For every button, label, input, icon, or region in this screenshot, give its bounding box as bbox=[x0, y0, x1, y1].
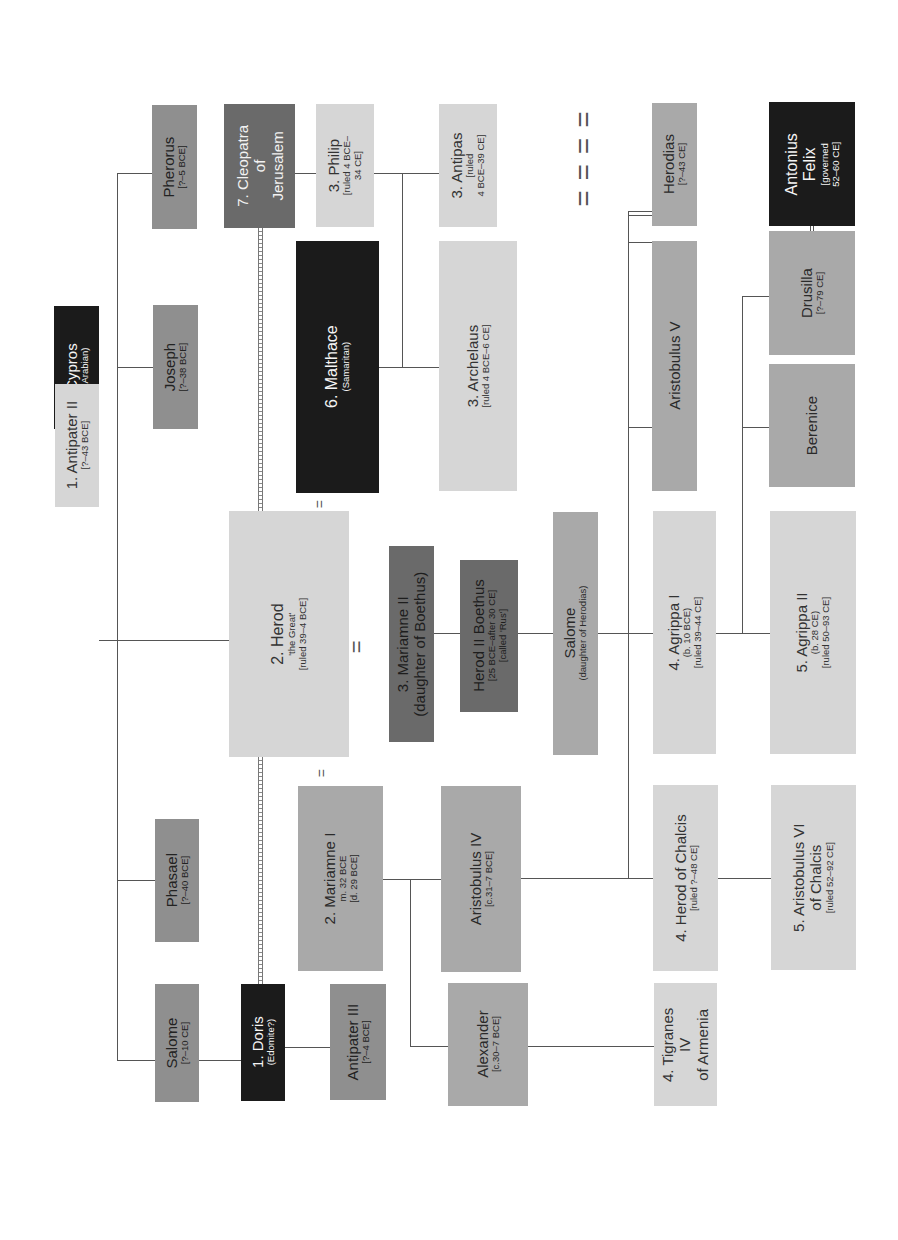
name: 3. Philip bbox=[325, 139, 342, 192]
person-malthace: 6. Malthace(Samaritan) bbox=[296, 241, 379, 493]
person-agrippa-ii: 5. Agrippa II(b. 28 CE)[ruled 50–93 CE] bbox=[770, 511, 856, 754]
person-herodias: Herodias[?–43 CE] bbox=[652, 103, 697, 226]
marriage-symbol-herod-mariamne-i: = bbox=[314, 769, 328, 777]
name: Drusilla bbox=[798, 268, 815, 318]
connector-aristobulus-iv-children bbox=[628, 211, 629, 879]
name: Salome bbox=[561, 608, 578, 659]
realm: of Armenia bbox=[694, 1009, 711, 1081]
person-aristobulus-iv: Aristobulus IV[c.31–7 BCE] bbox=[441, 786, 521, 972]
connector-salome-doris bbox=[199, 1060, 241, 1061]
person-antipater-iii: Antipater III[?–4 BCE] bbox=[330, 984, 386, 1100]
dates: [?–10 CE] bbox=[180, 1022, 191, 1064]
person-antonius-felix: AntoniusFelix[governed52–60 CE] bbox=[769, 102, 855, 226]
connector-alexander bbox=[410, 1046, 448, 1047]
person-phasael: Phasael[?–40 BCE] bbox=[155, 819, 199, 942]
dates: [?–4 BCE] bbox=[361, 1020, 372, 1063]
person-mariamne-ii: 3. Mariamne II(daughter of Boethus) bbox=[389, 546, 434, 742]
parentage: (daughter of Boethus) bbox=[412, 571, 429, 716]
connector-antipater-herod bbox=[99, 640, 229, 641]
name: 3. Mariamne II bbox=[394, 596, 411, 692]
died: [d. 29 BCE] bbox=[349, 854, 360, 903]
person-philip: 3. Philip[ruled 4 BCE–34 CE] bbox=[316, 104, 374, 227]
person-herod-ii-boethus: Herod II Boethus[25 BCE–after 30 CE][cal… bbox=[460, 560, 518, 712]
reign: [ruled 50–93 CE] bbox=[822, 597, 833, 668]
connector-alexander-tigranes bbox=[528, 1046, 654, 1047]
name: 3. Archelaus bbox=[464, 325, 481, 408]
connector-herod-ii-salome bbox=[518, 633, 553, 634]
connector-herod-chalcis-aristobulus-vi bbox=[718, 878, 771, 879]
person-alexander: Alexander[c.30–7 BCE] bbox=[448, 983, 528, 1106]
dates: [?–5 BCE] bbox=[178, 145, 189, 188]
nickname: [called 'Rus'] bbox=[498, 609, 509, 662]
connector-aristobulus-v bbox=[628, 427, 652, 428]
connector-herodias-2 bbox=[628, 215, 652, 216]
person-mariamne-i: 2. Mariamne Im. 32 BCE[d. 29 BCE] bbox=[298, 786, 383, 971]
reign: [ruled 39–4 BCE] bbox=[298, 598, 309, 670]
name: 4. Agrippa I bbox=[665, 595, 682, 671]
connector-salome-sister bbox=[117, 1060, 155, 1061]
reign: [ruled 39–44 CE] bbox=[693, 597, 704, 668]
person-salome-sister: Salome[?–10 CE] bbox=[155, 984, 199, 1102]
origin: (Samaritan) bbox=[341, 342, 352, 392]
connector-pherorus bbox=[117, 173, 152, 174]
name: Herod II Boethus bbox=[469, 580, 486, 693]
parentage: (daughter of Herodias) bbox=[579, 586, 590, 681]
name-place: Jerusalem bbox=[268, 131, 285, 200]
dates: [c.31–7 BCE] bbox=[484, 851, 495, 907]
marriage-line-herod-doris bbox=[258, 757, 263, 984]
connector-phasael bbox=[117, 880, 155, 881]
surname: Felix bbox=[801, 147, 819, 181]
person-doris: 1. Doris(Edomite?) bbox=[241, 984, 285, 1101]
person-salome-daughter: Salome(daughter of Herodias) bbox=[553, 512, 598, 755]
name: 6. Malthace bbox=[323, 326, 341, 409]
name: 1. Antipater II bbox=[63, 401, 80, 489]
dates: [?–79 CE] bbox=[815, 272, 826, 314]
dates: [c.30–7 BCE] bbox=[491, 1017, 502, 1073]
name: Aristobulus IV bbox=[467, 833, 484, 926]
name: 5. Agrippa II bbox=[793, 592, 810, 672]
name: 2. Herod bbox=[269, 603, 287, 664]
regnal-number: IV bbox=[677, 1037, 694, 1051]
name: 4. Tigranes bbox=[660, 1007, 677, 1081]
reign-end: 34 CE] bbox=[354, 151, 365, 180]
person-tigranes-iv: 4. TigranesIVof Armenia bbox=[654, 983, 717, 1106]
name: 7. Cleopatra bbox=[234, 125, 251, 207]
name: Pherorus bbox=[160, 137, 177, 198]
connector-agrippa-i-ii bbox=[716, 633, 770, 634]
governed-dates: 52–60 CE] bbox=[830, 142, 841, 187]
connector-doris-antipater-iii bbox=[285, 1047, 330, 1048]
reign: 4 BCE–39 CE] bbox=[477, 135, 488, 197]
marriage-symbol-antipas-herodias: ==== bbox=[569, 111, 597, 216]
person-berenice: Berenice bbox=[769, 364, 855, 487]
connector-aristobulus-v-top bbox=[628, 242, 652, 243]
connector-agrippa-i-children bbox=[742, 296, 743, 633]
realm: of Chalcis bbox=[808, 845, 825, 911]
name: Phasael bbox=[163, 853, 180, 907]
connector-mariamne-ii-herod-ii bbox=[434, 633, 460, 634]
connector-joseph bbox=[117, 367, 153, 368]
dates: [?–43 CE] bbox=[678, 143, 689, 185]
born: (b. 10 BCE) bbox=[682, 608, 693, 658]
connector-philip-antipas bbox=[374, 173, 439, 174]
person-pherorus: Pherorus[?–5 BCE] bbox=[152, 105, 197, 229]
connector-salome-agrippa-i bbox=[598, 633, 653, 634]
name-of: of bbox=[251, 160, 268, 173]
person-aristobulus-v: Aristobulus V bbox=[652, 241, 697, 491]
name: 3. Antipas bbox=[448, 133, 465, 199]
connector-cleopatra-philip bbox=[295, 173, 316, 174]
reign: [ruled ?–48 CE] bbox=[689, 845, 700, 911]
reign: [ruled 52–92 CE] bbox=[825, 842, 836, 913]
name: Aristobulus V bbox=[666, 322, 683, 410]
reign: [ruled 4 BCE–6 CE] bbox=[481, 325, 492, 408]
connector-antipater-children bbox=[117, 173, 118, 1060]
person-antipas: 3. Antipas[ruled4 BCE–39 CE] bbox=[439, 104, 497, 227]
connector-aristobulus-iv-herod-chalcis bbox=[521, 878, 653, 879]
dates: [?–43 BCE] bbox=[80, 421, 91, 470]
name: 2. Mariamne I bbox=[321, 833, 338, 925]
name: Berenice bbox=[803, 396, 820, 455]
connector-mariamne-i-trunk bbox=[410, 879, 411, 1047]
person-archelaus: 3. Archelaus[ruled 4 BCE–6 CE] bbox=[439, 241, 517, 491]
name: 5. Aristobulus VI bbox=[791, 823, 808, 931]
name: 1. Doris bbox=[249, 1017, 266, 1069]
person-cleopatra: 7. CleopatraofJerusalem bbox=[224, 104, 295, 228]
